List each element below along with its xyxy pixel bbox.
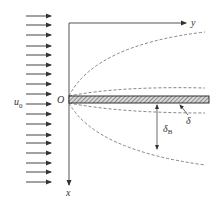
delta-label: δ <box>186 115 191 126</box>
y-axis-label: y <box>190 17 196 28</box>
inner-boundary-upper-curve <box>69 88 205 96</box>
x-axis-label: x <box>65 187 71 198</box>
outer-boundary-upper-curve <box>69 32 205 96</box>
inner-boundary-lower-curve <box>69 103 205 113</box>
origin-label: O <box>57 94 64 105</box>
delta-b-label: δB <box>163 123 173 136</box>
boundary-layer-diagram: u0 y x O δB δ <box>0 0 217 202</box>
delta-pointer <box>180 105 188 115</box>
outer-boundary-lower-curve <box>69 103 205 165</box>
flat-plate <box>69 96 209 103</box>
freestream-arrows <box>26 16 51 182</box>
diagram-svg: u0 y x O δB δ <box>0 0 217 202</box>
freestream-velocity-label: u0 <box>14 96 23 110</box>
